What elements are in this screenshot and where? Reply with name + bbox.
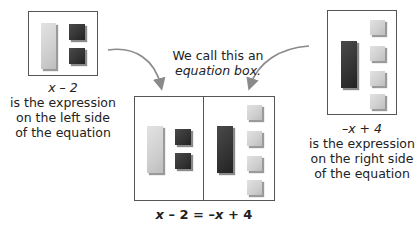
label-line-2: equation box.	[172, 63, 264, 78]
equation-box-divider	[203, 97, 204, 200]
equation-text: x – 2 = –x + 4	[134, 207, 274, 222]
left-expression-caption: x – 2 is the expression on the left side…	[0, 80, 128, 140]
caption-line: is the expression	[297, 136, 419, 151]
negative-unit-tile	[69, 48, 85, 64]
unit-tile	[370, 46, 385, 61]
x-tile	[41, 23, 56, 69]
unit-tile	[247, 131, 262, 146]
negative-unit-tile	[69, 24, 85, 40]
caption-line: on the left side	[0, 110, 128, 125]
unit-tile	[247, 105, 262, 120]
right-expression-box	[327, 10, 397, 115]
left-expression-box	[28, 11, 98, 76]
x-tile	[147, 126, 163, 173]
unit-tile	[370, 71, 385, 86]
negative-x-tile	[217, 126, 233, 173]
equation-box-label: We call this an equation box.	[172, 48, 264, 78]
right-expression-caption: –x + 4 is the expression on the right si…	[297, 121, 419, 181]
unit-tile	[370, 20, 385, 35]
caption-line: of the equation	[297, 166, 419, 181]
eq-var: x	[156, 207, 164, 222]
unit-tile	[247, 156, 262, 171]
unit-tile	[247, 180, 262, 195]
eq-part: – 2 = –	[164, 207, 215, 222]
unit-tile	[370, 94, 385, 109]
eq-part: + 4	[223, 207, 252, 222]
caption-line: of the equation	[0, 125, 128, 140]
label-line-1: We call this an	[172, 48, 264, 63]
left-expression-text: x – 2	[0, 80, 128, 95]
negative-unit-tile	[175, 129, 191, 145]
negative-x-tile	[341, 41, 357, 88]
right-expression-text: –x + 4	[297, 121, 419, 136]
equation-box	[134, 96, 275, 201]
caption-line: is the expression	[0, 95, 128, 110]
negative-unit-tile	[175, 153, 191, 169]
caption-line: on the right side	[297, 151, 419, 166]
